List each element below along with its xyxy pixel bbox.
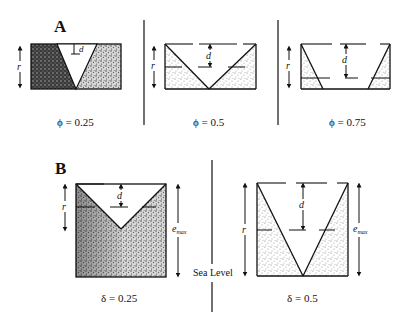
diagram-canvas: A d r ϕ = 0.25 d r ϕ = 0.5 [0, 0, 405, 320]
phi-caption: ϕ = 0.75 [329, 116, 366, 128]
delta-caption: δ = 0.25 [101, 292, 138, 304]
dim-r-label: r [242, 224, 246, 235]
panel-a-label: A [54, 17, 67, 36]
panel-a-case-3: d r ϕ = 0.75 [285, 44, 390, 128]
panel-a-case-2: d r ϕ = 0.5 [150, 44, 256, 128]
sea-level-label: Sea Level [193, 267, 233, 278]
panel-b-case-1: d r emax δ = 0.25 [61, 184, 192, 304]
panel-b-case-2: d r emax δ = 0.5 [241, 183, 373, 304]
dim-d-label: d [79, 44, 84, 54]
panel-b-label: B [55, 159, 66, 178]
delta-caption: δ = 0.5 [287, 292, 318, 304]
dim-r-label: r [286, 60, 290, 71]
panel-a-case-1: d r ϕ = 0.25 [16, 44, 121, 128]
dim-r-label: r [62, 201, 66, 212]
phi-caption: ϕ = 0.25 [57, 116, 94, 128]
dim-r-label: r [17, 61, 21, 72]
phi-caption: ϕ = 0.5 [193, 116, 225, 128]
dim-r-label: r [151, 60, 155, 71]
